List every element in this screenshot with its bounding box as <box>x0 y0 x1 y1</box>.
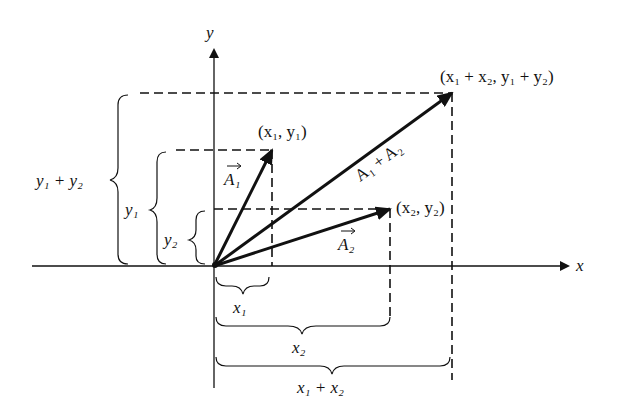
brace-label-x2: x₂ <box>291 338 306 357</box>
vector-a2 <box>214 209 390 266</box>
braces-y <box>110 95 205 264</box>
origin <box>212 262 218 268</box>
brace-x1 <box>216 277 269 294</box>
brace-x2 <box>216 317 390 334</box>
brace-label-y1: y₁ <box>123 200 138 219</box>
point-label-p2: (x₂, y₂) <box>396 198 445 217</box>
y-axis-label: y <box>204 23 214 42</box>
brace-label-x-sum: x₁ + x₂ <box>296 378 344 397</box>
svg-text:A₁: A₁ <box>223 170 240 189</box>
vector-addition-diagram: x y (x₁, y₁) (x₂, y₂) (x₁ + x₂, y₁ + y₂)… <box>0 0 625 420</box>
brace-y-sum <box>110 95 128 264</box>
point-label-sum: (x₁ + x₂, y₁ + y₂) <box>440 67 554 86</box>
brace-y2 <box>189 211 205 264</box>
vector-label-a1: A₁ <box>223 163 241 189</box>
vector-label-a2: A₂ <box>337 228 355 254</box>
brace-label-y2: y₂ <box>162 230 178 249</box>
brace-x-sum <box>216 357 450 374</box>
brace-label-x1: x₁ <box>232 298 246 317</box>
vector-sum <box>214 93 452 266</box>
point-label-p1: (x₁, y₁) <box>258 122 307 141</box>
braces-x <box>216 277 450 374</box>
x-axis-label: x <box>575 256 584 275</box>
brace-label-y-sum: y₁ + y₂ <box>34 171 83 190</box>
svg-text:A₂: A₂ <box>337 235 354 254</box>
vectors <box>214 93 452 266</box>
